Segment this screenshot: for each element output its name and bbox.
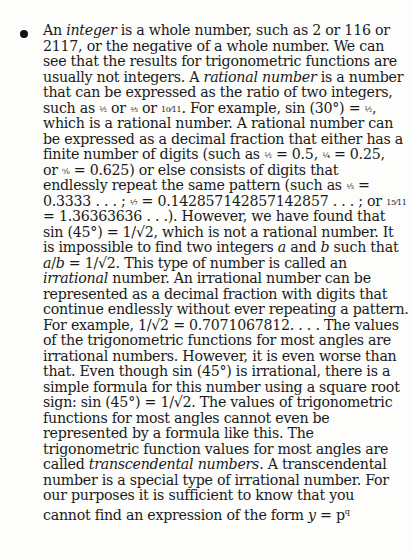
- text-line: functions for most angles cannot even be: [43, 411, 410, 427]
- text-line: represented by a formula like this. The: [43, 426, 410, 442]
- text-line: that. Even though sin (45°) is irrationa…: [43, 364, 410, 380]
- text-line: called transcendental numbers. A transce…: [43, 457, 410, 473]
- document-page: An integer is a whole number, such as 2 …: [0, 0, 410, 559]
- text-line: is impossible to find two integers a and…: [43, 240, 410, 256]
- text-line: = 1.36363636 . . .). However, we have fo…: [43, 209, 410, 225]
- text-line: represented as a decimal fraction with d…: [43, 287, 410, 303]
- fraction: ⅓: [346, 183, 354, 191]
- text-line: number is a special type of irrational n…: [43, 473, 410, 489]
- text-line: a/b = 1/√2. This type of number is calle…: [43, 256, 410, 272]
- text-line: cannot find an expression of the form y …: [43, 504, 410, 520]
- text-line: of the trigonometric functions for most …: [43, 333, 410, 349]
- text-line: For example, 1/√2 = 0.7071067812. . . . …: [43, 318, 410, 334]
- text-line: that can be expressed as the ratio of tw…: [43, 85, 410, 101]
- text-line: An integer is a whole number, such as 2 …: [43, 23, 410, 39]
- text-line: continue endlessly without ever repeatin…: [43, 302, 410, 318]
- text-line: trigonometric function values for most a…: [43, 442, 410, 458]
- text-line: irrational number. An irrational number …: [43, 271, 410, 287]
- text-line: see that the results for trigonometric f…: [43, 54, 410, 70]
- fraction: ½: [264, 152, 272, 160]
- fraction: ½: [99, 106, 107, 114]
- text-line: irrational numbers. However, it is even …: [43, 349, 410, 365]
- text-line: endlessly repeat the same pattern (such …: [43, 178, 410, 194]
- bullet-point-icon: [20, 30, 28, 38]
- text-line: simple formula for this number using a s…: [43, 380, 410, 396]
- text-line: sin (45°) = 1/√2, which is not a rationa…: [43, 225, 410, 241]
- text-line: 2117, or the negative of a whole number.…: [43, 39, 410, 55]
- term-integer: integer: [66, 22, 116, 38]
- term-transcendental-numbers: transcendental numbers: [89, 456, 259, 472]
- fraction: 10⁄11: [161, 106, 181, 114]
- term-rational-number: rational number: [204, 69, 317, 85]
- exponent: q: [345, 507, 350, 516]
- text-line: finite number of digits (such as ½ = 0.5…: [43, 147, 410, 163]
- text-line: such as ½ or ⅔ or 10⁄11. For example, si…: [43, 101, 410, 117]
- fraction: 15⁄11: [386, 199, 406, 207]
- fraction: ½: [365, 106, 373, 114]
- term-irrational: irrational: [43, 270, 108, 286]
- text-line: 0.3333 . . . ; ⅐ = 0.142857142857142857 …: [43, 194, 410, 210]
- text-line: sign: sin (45°) = 1/√2. The values of tr…: [43, 395, 410, 411]
- text-line: our purposes it is sufficient to know th…: [43, 488, 410, 504]
- text-line: or ⅝ = 0.625) or else consists of digits…: [43, 163, 410, 179]
- text-line: usually not integers. A rational number …: [43, 70, 410, 86]
- text-line: be expressed as a decimal fraction that …: [43, 132, 410, 148]
- body-paragraph: An integer is a whole number, such as 2 …: [43, 23, 410, 519]
- text-line: which is a rational number. A rational n…: [43, 116, 410, 132]
- fraction: ¼: [322, 152, 330, 160]
- fraction: ⅝: [62, 168, 70, 176]
- fraction: ⅔: [130, 106, 138, 114]
